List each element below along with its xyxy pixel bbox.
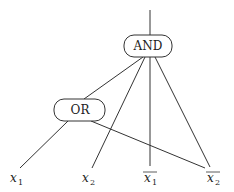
or-gate-label: OR	[71, 103, 91, 117]
input-x2: x 2	[82, 171, 95, 187]
circuit-diagram: AND OR x 1 x 2 x 1 x 2	[0, 0, 234, 192]
input-not-x1-sub: 1	[152, 178, 157, 187]
input-x2-sub: 2	[90, 178, 95, 187]
input-x1: x 1	[10, 171, 23, 187]
input-not-x2-base: x	[207, 171, 214, 185]
input-not-x1-base: x	[144, 171, 151, 185]
edge-or-and	[84, 57, 143, 99]
or-gate: OR	[54, 99, 105, 121]
and-gate: AND	[124, 35, 172, 57]
and-gate-label: AND	[133, 39, 163, 53]
input-not-x1: x 1	[143, 171, 157, 187]
input-x1-sub: 1	[18, 178, 23, 187]
input-x2-base: x	[82, 171, 89, 185]
edge-nx2-or	[91, 121, 205, 168]
input-x1-base: x	[10, 171, 17, 185]
input-not-x2: x 2	[206, 171, 220, 187]
input-not-x2-sub: 2	[215, 178, 220, 187]
edge-x1-or	[20, 121, 68, 168]
